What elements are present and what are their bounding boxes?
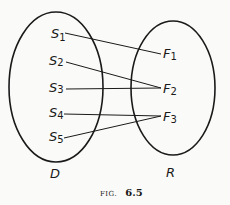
mapping-line-s5-f3 bbox=[64, 116, 161, 138]
mapping-line-s4-f3 bbox=[64, 114, 161, 116]
domain-elements: S1 S2 S3 S4 S5 bbox=[49, 26, 66, 145]
mapping-line-s3-f2 bbox=[66, 88, 161, 89]
range-elements: F1 F2 F3 bbox=[163, 46, 177, 125]
range-set-label: R bbox=[166, 165, 175, 180]
domain-element-s5: S5 bbox=[49, 129, 64, 145]
figure-caption: FIG. 6.5 bbox=[100, 181, 143, 200]
domain-set-label: D bbox=[50, 166, 60, 181]
domain-element-s2: S2 bbox=[49, 53, 64, 68]
figure-caption-prefix: FIG. bbox=[100, 190, 117, 198]
domain-element-s4: S4 bbox=[49, 105, 64, 121]
range-element-f3: F3 bbox=[163, 109, 177, 125]
domain-element-s1: S1 bbox=[51, 26, 66, 43]
mapping-lines bbox=[64, 33, 161, 138]
range-element-f2: F2 bbox=[163, 81, 177, 97]
figure-caption-number: 6.5 bbox=[125, 187, 142, 198]
domain-element-s3: S3 bbox=[49, 80, 64, 95]
mapping-diagram: S1 S2 S3 S4 S5 F1 F2 F3 D R FIG. 6.5 bbox=[0, 0, 230, 205]
range-element-f1: F1 bbox=[163, 46, 177, 62]
mapping-line-s2-f2 bbox=[66, 62, 161, 88]
